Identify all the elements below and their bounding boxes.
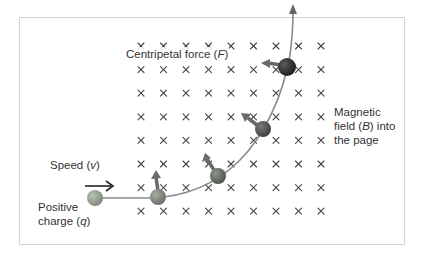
particle-4 (255, 121, 271, 137)
speed-label: Speed (v) (50, 158, 100, 172)
magnetic-field-label: Magnetic field (B) into the page (334, 105, 395, 147)
trajectory-path (95, 12, 293, 198)
speed-arrow-icon (85, 181, 113, 191)
centripetal-force-label: Centripetal force (F) (125, 47, 229, 61)
force-arrow-1 (156, 177, 158, 191)
trajectory-arrowhead (289, 4, 297, 14)
particle-2 (150, 189, 166, 205)
particles (87, 58, 296, 206)
magnetic-field-crosses (138, 43, 324, 214)
particle-3 (210, 168, 226, 184)
particle-5 (278, 58, 296, 76)
positive-charge-label: Positive charge (q) (38, 200, 90, 228)
